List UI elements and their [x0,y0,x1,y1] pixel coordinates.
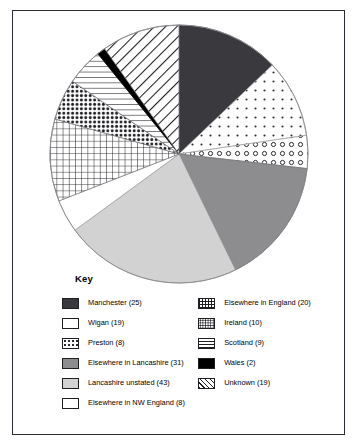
legend-item-wigan[interactable]: Wigan (19) [62,313,198,333]
legend-item-unknown[interactable]: Unknown (19) [198,373,338,393]
legend-label-elsewhere-in-england: Elsewhere in England (20) [224,299,311,306]
legend-item-elsewhere-in-lancashire[interactable]: Elsewhere in Lancashire (31) [62,353,198,373]
legend-label-wigan: Wigan (19) [88,319,124,326]
legend-label-wales: Wales (2) [224,359,255,366]
legend-label-unknown: Unknown (19) [224,379,270,386]
pie-chart-area [13,23,344,285]
legend-label-elsewhere-in-lancashire: Elsewhere in Lancashire (31) [88,359,184,366]
legend-column-right: Elsewhere in England (20) Ireland (10) S… [198,293,338,413]
pie-chart [44,23,314,285]
legend-label-preston: Preston (8) [88,339,125,346]
legend-label-scotland: Scotland (9) [224,339,264,346]
legend-column-left: Manchester (25) Wigan (19) Preston (8) E… [62,293,198,413]
legend-label-elsewhere-in-nw-england: Elsewhere in NW England (8) [88,399,185,406]
legend-item-elsewhere-in-england[interactable]: Elsewhere in England (20) [198,293,338,313]
legend-swatch-preston [62,338,79,349]
legend-swatch-ireland [198,318,215,329]
legend-label-ireland: Ireland (10) [224,319,262,326]
legend-label-lancashire-unstated: Lancashire unstated (43) [88,379,170,386]
legend-item-wales[interactable]: Wales (2) [198,353,338,373]
legend-swatch-wales [198,358,215,369]
legend-label-manchester: Manchester (25) [88,299,142,306]
legend-swatch-lancashire-unstated [62,378,79,389]
legend-item-manchester[interactable]: Manchester (25) [62,293,198,313]
chart-frame: Key Manchester (25) Wigan (19) Preston (… [12,10,345,435]
legend-swatch-wigan [62,318,79,329]
legend-swatch-elsewhere-in-nw-england [62,398,79,409]
legend-item-scotland[interactable]: Scotland (9) [198,333,338,353]
legend-item-elsewhere-in-nw-england[interactable]: Elsewhere in NW England (8) [62,393,198,413]
legend-item-ireland[interactable]: Ireland (10) [198,313,338,333]
legend-item-preston[interactable]: Preston (8) [62,333,198,353]
legend-title: Key [75,273,344,284]
legend-swatch-unknown [198,378,215,389]
legend-swatch-scotland [198,338,215,349]
legend: Key Manchester (25) Wigan (19) Preston (… [13,273,344,413]
pie-slices [49,25,307,283]
legend-swatch-elsewhere-in-lancashire [62,358,79,369]
legend-swatch-manchester [62,298,79,309]
legend-item-lancashire-unstated[interactable]: Lancashire unstated (43) [62,373,198,393]
legend-swatch-elsewhere-in-england [198,298,215,309]
